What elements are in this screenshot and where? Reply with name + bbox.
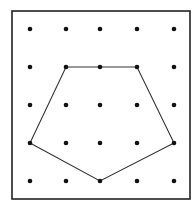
grid-dot [28,65,33,70]
geoboard-diagram [0,0,195,206]
grid-dot [135,27,140,32]
grid-dot [172,141,177,146]
dot-grid [28,27,177,184]
grid-dot [64,141,69,146]
grid-dot [172,65,177,70]
grid-dot [135,65,140,70]
grid-dot [64,27,69,32]
grid-dot [172,179,177,184]
grid-dot [172,27,177,32]
grid-dot [28,141,33,146]
grid-dot [135,103,140,108]
pentagon-outline [30,67,174,181]
grid-dot [28,179,33,184]
grid-dot [98,179,103,184]
grid-dot [172,103,177,108]
grid-dot [64,179,69,184]
grid-dot [28,103,33,108]
pentagon-shape [30,67,174,181]
grid-dot [98,65,103,70]
grid-dot [64,65,69,70]
grid-dot [98,103,103,108]
grid-dot [98,141,103,146]
grid-dot [64,103,69,108]
grid-dot [135,141,140,146]
grid-dot [98,27,103,32]
grid-dot [135,179,140,184]
grid-dot [28,27,33,32]
